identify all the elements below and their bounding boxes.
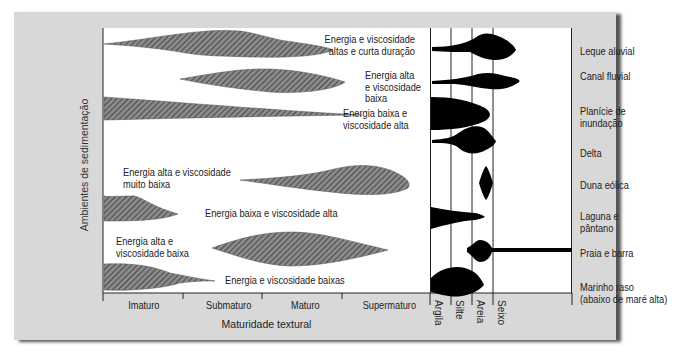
x-tick-maturo: Maturo <box>291 299 320 311</box>
label-line: viscosidade baixa <box>116 248 189 260</box>
grain-praia <box>467 240 572 262</box>
env-line: Leque aluvial <box>580 46 634 58</box>
shape-praia <box>212 232 388 266</box>
shape-label-laguna: Energia baixa e viscosidade alta <box>205 208 338 220</box>
env-line: inundação <box>580 118 626 130</box>
env-line: Marinho raso <box>580 282 667 294</box>
env-leque-aluvial: Leque aluvial <box>580 46 634 58</box>
grain-marinho-raso <box>431 267 484 297</box>
label-line: Energia alta e viscosidade <box>123 167 231 179</box>
env-line: (abaixo de maré alta) <box>580 294 667 306</box>
label-line: baixa <box>365 93 421 105</box>
grain-laguna <box>431 207 485 229</box>
env-duna-eolica: Duna eólica <box>580 180 629 192</box>
label-line: muito baixa <box>123 179 231 191</box>
env-line: Delta <box>580 148 602 160</box>
shape-leque-aluvial <box>104 30 333 57</box>
x-tick-supermaturo: Supermaturo <box>363 299 416 311</box>
grain-seixo: Seixo <box>496 300 507 325</box>
grain-planicie <box>431 97 490 130</box>
x-axis-title: Maturidade textural <box>103 318 430 330</box>
shape-label-canal: Energia alta e viscosidade baixa <box>365 70 421 105</box>
label-line: Energia alta <box>365 70 421 82</box>
label-line: viscosidade alta <box>343 120 409 132</box>
label-line: Energia baixa e viscosidade alta <box>205 208 338 220</box>
shape-label-duna: Energia alta e viscosidade muito baixa <box>123 167 231 190</box>
x-tick-imaturo: Imaturo <box>128 299 159 311</box>
env-line: Laguna e <box>580 211 619 223</box>
grain-argila: Argila <box>433 300 444 326</box>
shape-canal-fluvial <box>180 69 345 93</box>
grain-shapes <box>431 34 572 297</box>
shape-label-praia: Energia alta e viscosidade baixa <box>116 236 189 259</box>
shape-planicie <box>104 97 362 120</box>
env-line: Canal fluvial <box>580 71 630 83</box>
label-line: Energia e viscosidade baixas <box>225 275 345 287</box>
env-delta: Delta <box>580 148 602 160</box>
env-praia: Praia e barra <box>580 248 633 260</box>
grain-silte: Silte <box>454 300 465 319</box>
env-marinho-raso: Marinho raso(abaixo de maré alta) <box>580 282 667 305</box>
shape-duna-eolica <box>240 165 409 194</box>
grain-delta <box>432 126 496 153</box>
shape-label-leque: Energia e viscosidade altas e curta dura… <box>314 34 415 57</box>
grain-canal-fluvial <box>432 73 520 89</box>
env-line: Planície de <box>580 106 626 118</box>
shape-laguna <box>104 196 178 221</box>
x-tick-submaturo: Submaturo <box>206 299 251 311</box>
env-line: pântano <box>580 223 619 235</box>
shape-label-planicie: Energia baixa e viscosidade alta <box>343 108 409 131</box>
label-line: altas e curta duração <box>314 46 415 58</box>
grain-duna-eolica <box>479 166 493 200</box>
env-laguna: Laguna epântano <box>580 211 619 234</box>
label-line: Energia e viscosidade <box>314 34 415 46</box>
env-line: Duna eólica <box>580 180 629 192</box>
grain-areia: Areia <box>475 300 486 323</box>
env-line: Praia e barra <box>580 248 633 260</box>
env-planicie: Planície deinundação <box>580 106 626 129</box>
y-axis-title: Ambientes de sedimentação <box>78 99 90 232</box>
label-line: Energia alta e <box>116 236 189 248</box>
label-line: Energia baixa e <box>343 108 409 120</box>
shape-label-marinho: Energia e viscosidade baixas <box>225 275 345 287</box>
shape-marinho-raso <box>104 264 215 290</box>
env-canal-fluvial: Canal fluvial <box>580 71 630 83</box>
grain-leque-aluvial <box>432 34 516 60</box>
